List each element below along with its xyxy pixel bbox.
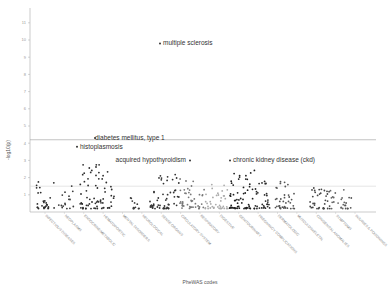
data-point (343, 189, 345, 191)
data-point (331, 208, 333, 210)
data-point (104, 187, 106, 189)
data-point (249, 186, 251, 188)
data-point (329, 208, 331, 210)
data-point (212, 197, 214, 199)
data-point (325, 199, 327, 201)
data-point (255, 205, 257, 207)
data-point (170, 192, 172, 194)
data-point (82, 207, 84, 209)
y-tick-label: 6 (24, 106, 27, 111)
data-point (226, 189, 228, 191)
data-point (248, 205, 250, 207)
data-point (247, 207, 249, 209)
data-point (269, 207, 271, 209)
data-point (89, 203, 91, 205)
data-point (167, 207, 169, 209)
data-point (167, 176, 169, 178)
data-point (105, 182, 107, 184)
data-point (188, 196, 190, 198)
data-point (199, 194, 201, 196)
manhattan-plot: 1234567891011 INFECTIOUS DISEASESNEOPLAS… (0, 0, 388, 295)
data-point (289, 202, 291, 204)
data-point (87, 205, 89, 207)
data-point (43, 200, 45, 202)
data-point (90, 208, 92, 210)
data-point (219, 205, 221, 207)
data-point (154, 208, 156, 210)
data-point (345, 205, 347, 207)
data-point (221, 190, 223, 192)
data-point (40, 192, 42, 194)
data-point (261, 207, 263, 209)
data-point (187, 204, 189, 206)
data-point (311, 189, 313, 191)
data-point (248, 204, 250, 206)
data-point (316, 208, 318, 210)
data-point (243, 187, 245, 189)
data-point (192, 206, 194, 208)
y-tick-label: 9 (24, 55, 27, 60)
data-point (43, 208, 45, 210)
data-point (279, 201, 281, 203)
data-point (226, 206, 228, 208)
data-point (80, 193, 82, 195)
data-point (233, 173, 235, 175)
data-point (173, 192, 175, 194)
data-point (348, 197, 350, 199)
data-point (309, 206, 311, 208)
data-point (230, 180, 232, 182)
data-point (330, 190, 332, 192)
data-point (135, 206, 137, 208)
data-point (275, 207, 277, 209)
data-point (69, 207, 71, 209)
data-point (97, 200, 99, 202)
y-tick-label: 1 (24, 192, 27, 197)
data-point (98, 164, 100, 166)
x-axis-title: PheWAS codes (183, 279, 218, 285)
data-point (160, 179, 162, 181)
data-point (318, 207, 320, 209)
data-point (180, 189, 182, 191)
data-point (288, 194, 290, 196)
annotated-point (189, 159, 191, 161)
data-point (235, 207, 237, 209)
data-point (189, 189, 191, 191)
data-point (313, 187, 315, 189)
data-point (223, 208, 225, 210)
data-point (159, 207, 161, 209)
data-point (327, 208, 329, 210)
data-point (256, 191, 258, 193)
data-point (157, 206, 159, 208)
data-point (183, 189, 185, 191)
annotated-point (229, 159, 231, 161)
data-point (267, 206, 269, 208)
data-point (327, 193, 329, 195)
data-point (242, 199, 244, 201)
data-point (252, 198, 254, 200)
data-point (110, 201, 112, 203)
data-point (113, 195, 115, 197)
data-point (276, 205, 278, 207)
data-point (314, 191, 316, 193)
data-point (83, 172, 85, 174)
x-category-label: DIGESTIVE (219, 214, 236, 231)
data-point (284, 197, 286, 199)
data-point (69, 199, 71, 201)
data-point (157, 204, 159, 206)
data-point (267, 203, 269, 205)
data-point (111, 205, 113, 207)
data-point (256, 206, 258, 208)
data-point (312, 203, 314, 205)
data-point (280, 198, 282, 200)
data-point (249, 208, 251, 210)
data-point (284, 194, 286, 196)
data-point (293, 208, 295, 210)
data-point (162, 193, 164, 195)
annotated-point (159, 42, 161, 44)
data-point (327, 200, 329, 202)
data-point (282, 201, 284, 203)
data-point (284, 186, 286, 188)
data-point (243, 208, 245, 210)
data-point (180, 201, 182, 203)
data-point (291, 199, 293, 201)
